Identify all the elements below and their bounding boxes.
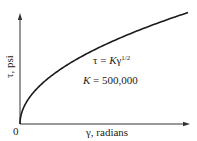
x-axis-label: γ, radians <box>86 127 128 138</box>
sqrt-curve <box>20 13 188 124</box>
chart-canvas <box>0 0 197 141</box>
equation-annotation: τ = Kγ1/2 <box>93 55 130 66</box>
y-axis-label: τ, psi <box>4 55 15 78</box>
x-axis-arrow-icon <box>183 122 190 126</box>
k-value: = 500,000 <box>90 74 137 86</box>
y-axis-arrow-icon <box>18 13 22 20</box>
k-value-annotation: K = 500,000 <box>83 75 138 86</box>
equation-exponent: 1/2 <box>121 54 130 62</box>
equation-lhs: τ = <box>93 54 109 66</box>
origin-label: 0 <box>13 126 19 137</box>
